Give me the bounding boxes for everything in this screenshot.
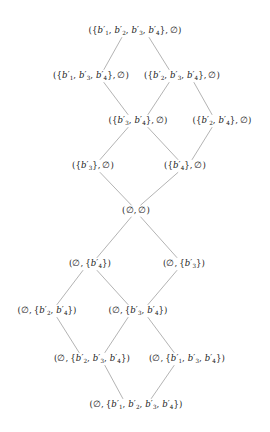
lattice-node: (∅, {b′3, b′4}) <box>108 306 167 316</box>
lattice-node: ({b′1, b′2, b′3, b′4}, ∅) <box>89 26 182 36</box>
node-layer: ({b′1, b′2, b′3, b′4}, ∅)({b′1, b′3, b′4… <box>0 0 270 432</box>
lattice-node: ({b′3, b′4}, ∅) <box>108 116 167 126</box>
lattice-node: (∅, {b′2, b′4}) <box>17 306 76 316</box>
lattice-node: ({b′4}, ∅) <box>164 161 206 171</box>
hasse-diagram: ({b′1, b′2, b′3, b′4}, ∅)({b′1, b′3, b′4… <box>0 0 270 432</box>
lattice-node: ({b′2, b′4}, ∅) <box>192 116 251 126</box>
lattice-node: (∅, {b′4}) <box>69 259 111 269</box>
lattice-node: ({b′3}, ∅) <box>72 161 114 171</box>
lattice-node: (∅, ∅) <box>122 206 150 215</box>
lattice-node: (∅, {b′1, b′2, b′3, b′4}) <box>90 400 183 410</box>
lattice-node: ({b′2, b′3, b′4}, ∅) <box>144 71 220 81</box>
lattice-node: (∅, {b′1, b′3, b′4}) <box>149 354 225 364</box>
lattice-node: ({b′1, b′3, b′4}, ∅) <box>53 71 129 81</box>
lattice-node: (∅, {b′2, b′3, b′4}) <box>54 354 130 364</box>
lattice-node: (∅, {b′3}) <box>163 259 205 269</box>
